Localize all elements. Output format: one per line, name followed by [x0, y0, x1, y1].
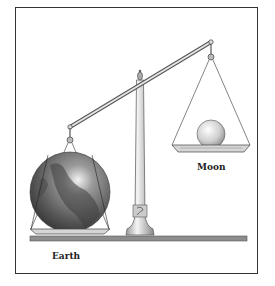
- balance-scale-illustration: [0, 0, 275, 286]
- moon-sphere: [197, 120, 225, 148]
- scale-base: [30, 236, 247, 241]
- earth-label: Earth: [52, 251, 80, 261]
- moon-label: Moon: [197, 162, 226, 172]
- earth-sphere: [30, 152, 110, 232]
- moon-pan: [172, 145, 250, 152]
- scale-pillar: [126, 70, 154, 235]
- earth-pan: [30, 229, 110, 234]
